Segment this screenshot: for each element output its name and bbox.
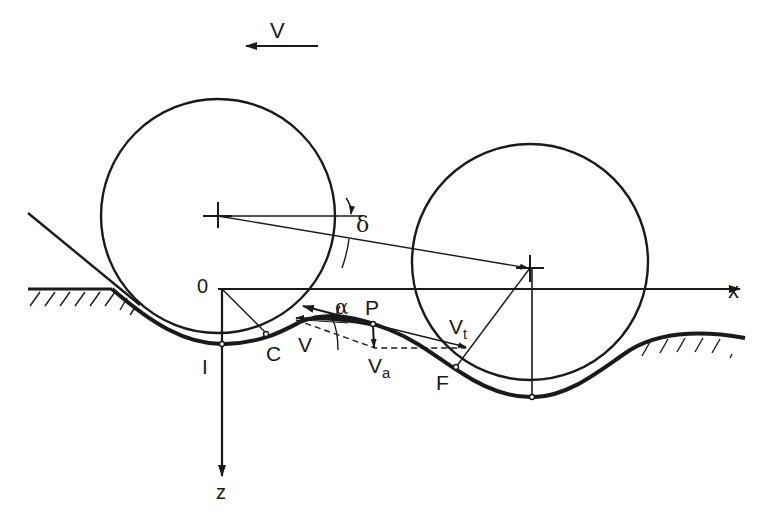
x-axis-label: x	[728, 280, 739, 302]
point-P-label: P	[365, 297, 379, 318]
point-F-label: F	[436, 372, 449, 393]
delta-angle-lines	[218, 198, 528, 268]
point-C-marker	[264, 332, 269, 337]
z-axis-label: z	[216, 482, 226, 502]
point-I-label: I	[202, 356, 208, 377]
vector-Vt-label: Vt	[449, 316, 467, 342]
point-I-marker	[220, 342, 225, 347]
left-wheel-center-mark	[203, 202, 232, 228]
vector-Va-label: Va	[368, 355, 390, 381]
vector-V-label: V	[298, 334, 312, 355]
vector-Vt-main: V	[449, 315, 463, 338]
diagram-canvas: V δ 0 x z α P C I F V Va Vt	[0, 0, 763, 515]
origin-label: 0	[197, 276, 208, 296]
point-P-marker	[371, 322, 376, 327]
alpha-label: α	[335, 297, 349, 317]
vector-Va-sub: a	[382, 365, 390, 381]
diagram-drawing	[0, 0, 763, 515]
vector-Vt-sub: t	[463, 326, 467, 342]
radius-line-to-C	[222, 289, 266, 333]
point-F-marker	[454, 365, 459, 370]
vector-Va-main: V	[368, 354, 382, 377]
delta-label: δ	[356, 214, 369, 236]
velocity-label-top: V	[270, 20, 285, 42]
point-C-label: C	[266, 343, 281, 364]
bottom-point-marker	[530, 395, 535, 400]
